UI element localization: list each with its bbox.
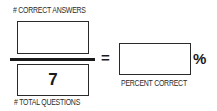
percent-sign: % (193, 50, 206, 67)
correct-answers-input[interactable] (17, 21, 89, 54)
equals-sign: = (101, 49, 110, 66)
percent-correct-input[interactable] (119, 43, 191, 75)
denominator-label: # TOTAL QUESTIONS (14, 97, 80, 107)
fraction-bar (10, 58, 95, 61)
numerator-label: # CORRECT ANSWERS (13, 5, 86, 15)
denominator-value: 7 (48, 70, 57, 90)
total-questions-box: 7 (17, 64, 89, 96)
result-label: PERCENT CORRECT (121, 78, 187, 88)
